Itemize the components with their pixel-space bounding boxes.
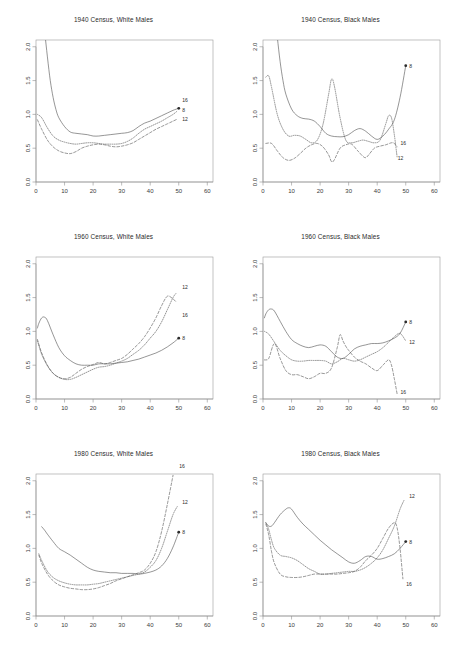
series-label-12: 12	[409, 493, 415, 499]
y-tick-label: 1.5	[252, 76, 258, 85]
x-tick-label: 0	[34, 188, 38, 194]
x-tick-label: 10	[288, 622, 295, 628]
chart-panel: 1980 Census, Black Males01020304050600.0…	[227, 434, 454, 651]
series-curve-8	[266, 508, 406, 564]
series-endpoint-8	[177, 107, 180, 110]
x-tick-label: 20	[90, 622, 97, 628]
series-label-12: 12	[182, 116, 188, 122]
series-curve-12	[266, 75, 397, 157]
x-tick-label: 60	[204, 622, 211, 628]
x-tick-label: 0	[261, 622, 265, 628]
series-curve-8	[274, 6, 405, 139]
series-label-16: 16	[401, 389, 407, 395]
y-tick-label: 1.5	[25, 76, 31, 85]
x-tick-label: 20	[90, 405, 97, 411]
y-tick-label: 0.5	[25, 360, 31, 369]
series-label-8: 8	[182, 529, 185, 535]
series-curve-12	[39, 506, 177, 584]
chart-panel: 1940 Census, White Males01020304050600.0…	[0, 0, 227, 217]
plot-frame	[36, 40, 213, 182]
y-tick-label: 0.0	[25, 611, 31, 620]
x-tick-label: 30	[118, 622, 125, 628]
x-tick-label: 30	[345, 405, 352, 411]
x-tick-label: 30	[118, 405, 125, 411]
y-tick-label: 1.0	[25, 544, 31, 553]
x-tick-label: 50	[402, 622, 409, 628]
series-curve-12	[264, 331, 405, 363]
series-label-8: 8	[182, 335, 185, 341]
x-tick-label: 20	[317, 188, 324, 194]
plot-frame	[263, 40, 440, 182]
series-curve-16	[37, 111, 177, 144]
y-tick-label: 0.0	[25, 177, 31, 186]
series-label-16: 16	[401, 140, 407, 146]
y-tick-label: 2.0	[25, 259, 31, 268]
series-label-16: 16	[182, 312, 188, 318]
series-endpoint-8	[404, 540, 407, 543]
x-tick-label: 50	[175, 188, 182, 194]
plot-area: 01020304050600.00.51.01.52.081612	[0, 0, 227, 217]
y-tick-label: 2.0	[25, 42, 31, 51]
x-tick-label: 50	[402, 405, 409, 411]
series-label-8: 8	[182, 107, 185, 113]
x-tick-label: 40	[374, 405, 381, 411]
x-tick-label: 40	[374, 622, 381, 628]
y-tick-label: 2.0	[252, 42, 258, 51]
series-endpoint-8	[177, 337, 180, 340]
series-curve-8	[42, 527, 179, 574]
plot-area: 01020304050600.00.51.01.52.081216	[227, 434, 454, 651]
series-curve-8	[264, 309, 405, 359]
y-tick-label: 1.0	[25, 327, 31, 336]
x-tick-label: 30	[118, 188, 125, 194]
series-curve-8	[42, 0, 179, 136]
y-tick-label: 2.0	[252, 259, 258, 268]
y-tick-label: 0.5	[25, 143, 31, 152]
y-tick-label: 0.0	[252, 394, 258, 403]
chart-panel: 1940 Census, Black Males01020304050600.0…	[227, 0, 454, 217]
y-tick-label: 0.0	[252, 177, 258, 186]
series-label-12: 12	[182, 499, 188, 505]
y-tick-label: 0.5	[252, 577, 258, 586]
y-tick-label: 1.0	[252, 327, 258, 336]
y-tick-label: 0.0	[25, 394, 31, 403]
series-label-16: 16	[179, 463, 185, 469]
y-tick-label: 1.0	[25, 110, 31, 119]
x-tick-label: 0	[261, 405, 265, 411]
series-label-8: 8	[409, 319, 412, 325]
plot-area: 01020304050600.00.51.01.52.081612	[0, 434, 227, 651]
series-endpoint-8	[177, 531, 180, 534]
x-tick-label: 10	[61, 188, 68, 194]
x-tick-label: 20	[90, 188, 97, 194]
series-curve-16	[266, 523, 403, 579]
series-curve-12	[37, 296, 175, 379]
x-tick-label: 40	[147, 405, 154, 411]
y-tick-label: 2.0	[252, 476, 258, 485]
y-tick-label: 1.5	[25, 293, 31, 302]
x-tick-label: 0	[261, 188, 265, 194]
y-tick-label: 1.5	[252, 510, 258, 519]
series-curve-16	[39, 475, 173, 589]
series-label-12: 12	[409, 339, 415, 345]
series-curve-16	[266, 143, 397, 162]
chart-panel: 1960 Census, White Males01020304050600.0…	[0, 217, 227, 434]
figure-panel-grid: 1940 Census, White Males01020304050600.0…	[0, 0, 454, 651]
series-endpoint-8	[404, 321, 407, 324]
series-label-12: 12	[398, 155, 404, 161]
series-curve-16	[37, 294, 175, 380]
y-tick-label: 1.5	[25, 510, 31, 519]
plot-frame	[263, 257, 440, 399]
x-tick-label: 40	[374, 188, 381, 194]
y-tick-label: 1.5	[252, 293, 258, 302]
x-tick-label: 10	[288, 188, 295, 194]
series-label-16: 16	[182, 97, 188, 103]
x-tick-label: 0	[34, 405, 38, 411]
plot-area: 01020304050600.00.51.01.52.081216	[0, 217, 227, 434]
series-label-16: 16	[406, 581, 412, 587]
series-curve-8	[37, 317, 178, 365]
x-tick-label: 20	[317, 622, 324, 628]
y-tick-label: 0.0	[252, 611, 258, 620]
x-tick-label: 40	[147, 188, 154, 194]
chart-panel: 1960 Census, Black Males01020304050600.0…	[227, 217, 454, 434]
x-tick-label: 20	[317, 405, 324, 411]
y-tick-label: 2.0	[25, 476, 31, 485]
